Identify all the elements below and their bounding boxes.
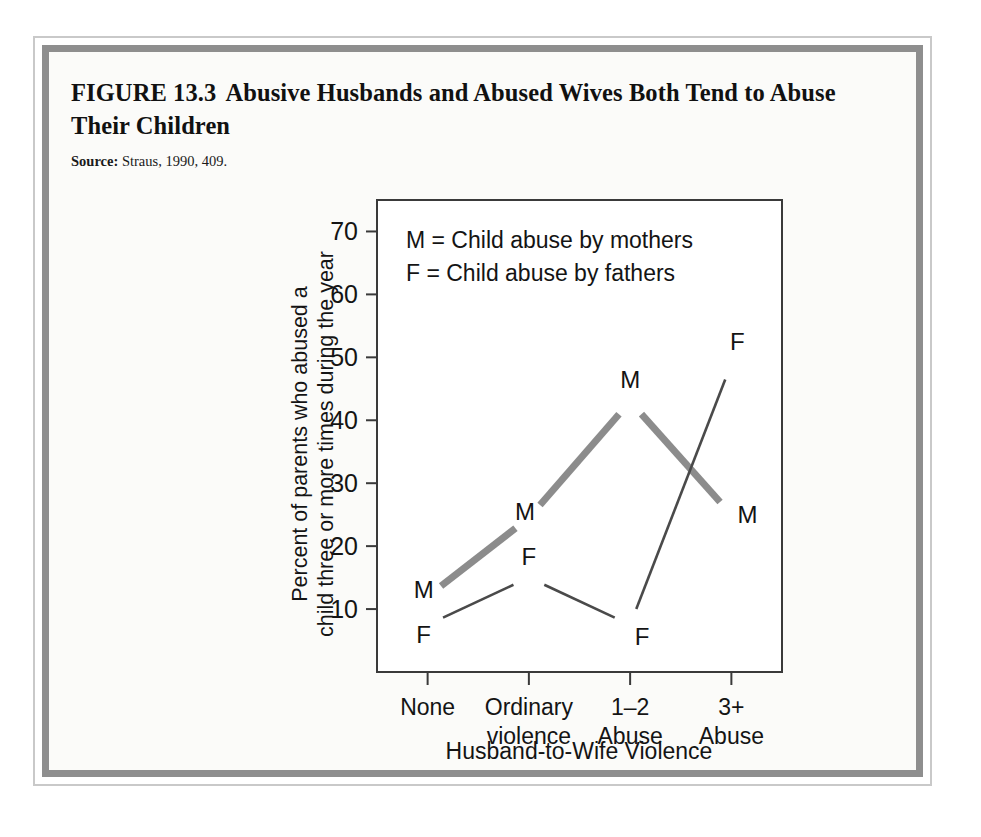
- y-axis-ticks: [366, 231, 377, 609]
- figure-outer-frame: FIGURE 13.3Abusive Husbands and Abused W…: [33, 36, 932, 786]
- chart-area: 10203040506070 NoneOrdinaryviolence1–2Ab…: [49, 52, 916, 770]
- figure-inner-border: FIGURE 13.3Abusive Husbands and Abused W…: [42, 45, 923, 777]
- point-label-M: M: [515, 498, 535, 525]
- point-label-M: M: [737, 501, 757, 528]
- point-label-F: F: [416, 621, 431, 648]
- point-label-F: F: [635, 623, 650, 650]
- x-axis-ticks: [428, 672, 732, 685]
- line-chart: 10203040506070 NoneOrdinaryviolence1–2Ab…: [49, 52, 934, 788]
- point-label-F: F: [730, 328, 745, 355]
- y-axis-title-line1: Percent of parents who abused a: [288, 286, 312, 602]
- point-label-M: M: [620, 366, 640, 393]
- y-axis-title-line2: child three or more times during the yea…: [314, 251, 338, 637]
- y-tick-label: 70: [330, 217, 358, 245]
- x-axis-title: Husband-to-Wife Violence: [446, 738, 713, 764]
- x-tick-label: Ordinary: [485, 694, 574, 720]
- point-label-F: F: [522, 543, 537, 570]
- x-tick-label: None: [400, 694, 455, 720]
- point-label-M: M: [414, 576, 434, 603]
- legend-entry: F = Child abuse by fathers: [406, 260, 675, 286]
- x-tick-label: 1–2: [611, 694, 649, 720]
- x-tick-label: 3+: [718, 694, 744, 720]
- figure-body: FIGURE 13.3Abusive Husbands and Abused W…: [49, 52, 916, 770]
- legend-entry: M = Child abuse by mothers: [406, 227, 693, 253]
